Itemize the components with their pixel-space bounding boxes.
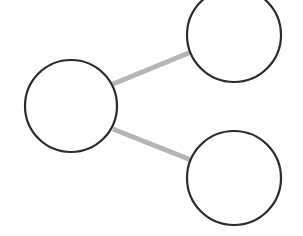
edge-left-to-top-right <box>113 52 191 84</box>
node-left <box>25 60 117 152</box>
graph-diagram <box>0 0 303 236</box>
edge-left-to-bottom-right <box>113 129 191 160</box>
diagram-canvas <box>0 0 303 236</box>
edges <box>113 52 191 160</box>
node-top-right <box>187 0 281 82</box>
nodes <box>25 0 281 225</box>
node-bottom-right <box>187 131 281 225</box>
